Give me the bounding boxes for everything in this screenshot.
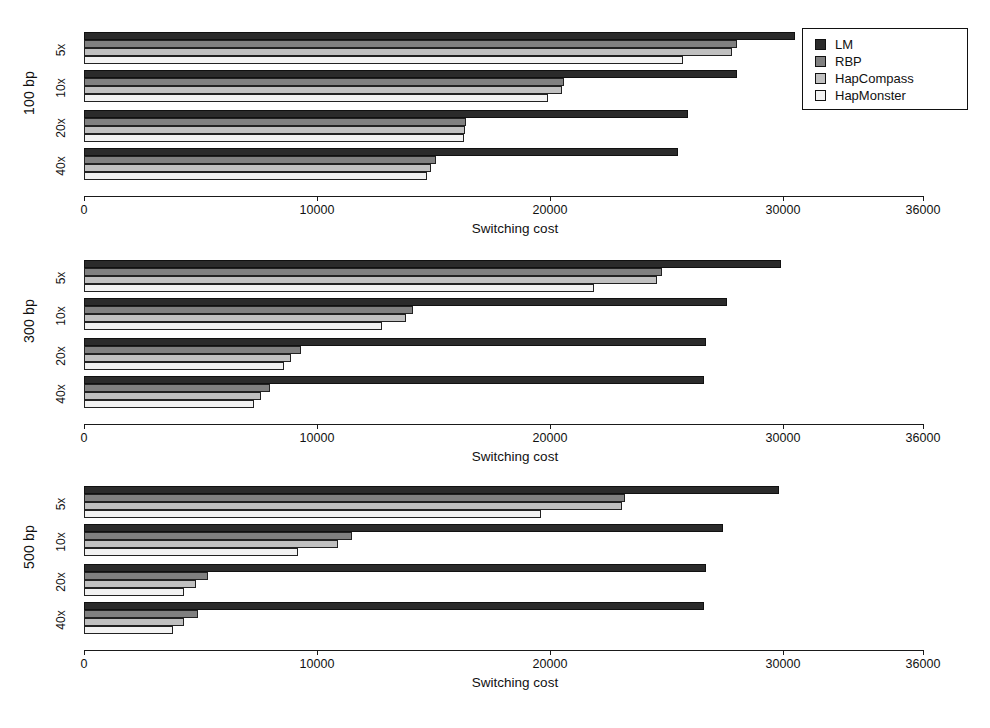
legend-item: LM (815, 36, 967, 53)
legend-item: RBP (815, 53, 967, 70)
bar-hapmonster (84, 588, 184, 596)
panel-group-label-100bp: 100 bp (18, 8, 40, 178)
legend-item-label: RBP (835, 55, 862, 68)
bar-lm (84, 338, 706, 346)
bar-hapcompass (84, 540, 338, 548)
x-tick (84, 424, 85, 429)
coverage-group: 5x (84, 486, 923, 521)
bar-rbp (84, 40, 737, 48)
coverage-group: 40x (84, 148, 923, 183)
bar-rbp (84, 118, 466, 126)
coverage-group: 40x (84, 376, 923, 411)
x-axis-line-100bp: 0 10000 20000 30000 36000 (84, 196, 924, 197)
coverage-label-text: 40x (54, 156, 68, 175)
legend-item-label: HapCompass (835, 72, 914, 85)
bar-hapmonster (84, 56, 683, 64)
legend-item-label: HapMonster (835, 89, 906, 102)
legend-item: HapMonster (815, 87, 967, 104)
bar-hapmonster (84, 626, 173, 634)
coverage-label: 10x (46, 298, 76, 333)
bar-hapmonster (84, 400, 254, 408)
bar-rbp (84, 572, 208, 580)
bar-hapcompass (84, 126, 465, 134)
bar-hapcompass (84, 580, 196, 588)
x-axis-line-300bp: 0 10000 20000 30000 36000 (84, 424, 924, 425)
switching-cost-figure: 100 bp 5x10x20x40x 0 10000 20000 30000 3… (0, 0, 990, 728)
legend-item: HapCompass (815, 70, 967, 87)
x-tick (317, 196, 318, 201)
coverage-group: 40x (84, 602, 923, 637)
legend-item-label: LM (835, 38, 853, 51)
coverage-label: 10x (46, 70, 76, 105)
bar-rbp (84, 78, 564, 86)
x-tick (550, 196, 551, 201)
x-tick-label: 0 (81, 657, 88, 671)
coverage-label: 40x (46, 376, 76, 411)
bar-hapcompass (84, 48, 732, 56)
x-tick (783, 196, 784, 201)
bar-lm (84, 602, 704, 610)
coverage-label: 5x (46, 260, 76, 295)
x-tick (923, 650, 924, 655)
x-axis-title-500bp: Switching cost (0, 675, 990, 690)
bar-hapmonster (84, 510, 541, 518)
legend-swatch-icon (815, 90, 826, 101)
bar-hapcompass (84, 502, 622, 510)
panel-group-label-500bp: 500 bp (18, 462, 40, 632)
x-tick-label: 36000 (906, 203, 941, 217)
coverage-label: 5x (46, 486, 76, 521)
coverage-group: 20x (84, 110, 923, 145)
coverage-label-text: 5x (54, 271, 68, 284)
panel-500bp: 500 bp 5x10x20x40x 0 10000 20000 30000 3… (0, 462, 990, 690)
bar-rbp (84, 494, 625, 502)
panel-300bp: 300 bp 5x10x20x40x 0 10000 20000 30000 3… (0, 236, 990, 464)
bar-rbp (84, 156, 436, 164)
coverage-label: 40x (46, 148, 76, 183)
coverage-group: 10x (84, 298, 923, 333)
bar-hapmonster (84, 322, 382, 330)
panel-group-label-300bp: 300 bp (18, 236, 40, 406)
bar-hapcompass (84, 86, 562, 94)
x-axis-title-100bp: Switching cost (0, 221, 990, 236)
coverage-label: 10x (46, 524, 76, 559)
bar-rbp (84, 384, 270, 392)
bar-rbp (84, 532, 352, 540)
legend-swatch-icon (815, 73, 826, 84)
bar-rbp (84, 610, 198, 618)
bar-lm (84, 110, 688, 118)
bar-hapmonster (84, 548, 298, 556)
coverage-group: 5x (84, 260, 923, 295)
x-tick (317, 650, 318, 655)
x-tick (84, 650, 85, 655)
bar-hapcompass (84, 276, 657, 284)
bar-hapmonster (84, 362, 284, 370)
bar-lm (84, 564, 706, 572)
bar-lm (84, 32, 795, 40)
bar-lm (84, 524, 723, 532)
legend-swatch-icon (815, 39, 826, 50)
bar-hapcompass (84, 164, 431, 172)
x-tick-label: 10000 (300, 203, 335, 217)
bar-rbp (84, 268, 662, 276)
plot-area-100bp: 5x10x20x40x (84, 30, 923, 188)
x-tick (783, 424, 784, 429)
bar-lm (84, 148, 678, 156)
bar-hapmonster (84, 94, 548, 102)
bar-hapcompass (84, 354, 291, 362)
bar-hapmonster (84, 284, 594, 292)
coverage-label-text: 20x (54, 346, 68, 365)
coverage-label-text: 10x (54, 78, 68, 97)
x-tick (923, 196, 924, 201)
x-axis-title-text: Switching cost (472, 675, 558, 690)
bar-hapmonster (84, 134, 464, 142)
coverage-label: 40x (46, 602, 76, 637)
bar-lm (84, 70, 737, 78)
coverage-group: 20x (84, 564, 923, 599)
coverage-label-text: 10x (54, 306, 68, 325)
x-tick-label: 20000 (533, 203, 568, 217)
x-tick-label: 20000 (533, 657, 568, 671)
coverage-label: 5x (46, 32, 76, 67)
x-axis-title-text: Switching cost (472, 221, 558, 236)
x-tick (84, 196, 85, 201)
bar-lm (84, 486, 779, 494)
